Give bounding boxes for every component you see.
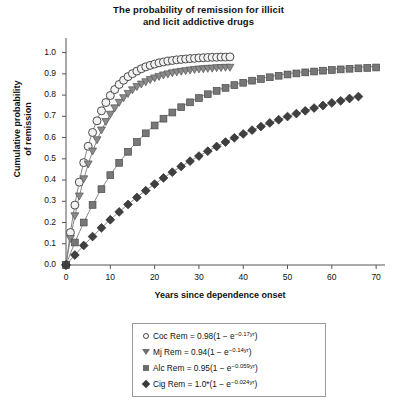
data-point <box>111 105 119 112</box>
data-point <box>169 109 176 116</box>
data-point <box>292 109 301 118</box>
y-tick-label: 0.5 <box>22 153 56 163</box>
data-point <box>284 71 291 78</box>
legend-tail-coc: ) <box>255 331 258 341</box>
x-tick-label: 0 <box>53 272 79 282</box>
data-point <box>116 159 123 166</box>
data-point <box>98 186 105 193</box>
legend-tail-cig: ) <box>254 379 257 389</box>
data-point <box>178 104 185 111</box>
data-point <box>168 168 177 177</box>
legend-tail-mj: ) <box>249 347 252 357</box>
legend-label-cig: Cig Rem = 1.0*(1 − e−0.024yr) <box>153 379 257 389</box>
data-point <box>275 72 282 79</box>
plot-svg <box>0 0 397 310</box>
x-tick-label: 70 <box>363 272 389 282</box>
legend-label-coc: Coc Rem = 0.98(1 − e−0.17yr) <box>153 331 258 341</box>
data-point <box>337 66 344 73</box>
data-point <box>151 122 158 129</box>
data-point <box>89 148 97 155</box>
legend-label-alc: Alc Rem = 0.95(1 − e−0.059yr) <box>153 363 258 373</box>
data-point <box>265 119 274 128</box>
data-point <box>97 127 105 134</box>
data-point <box>93 117 101 125</box>
data-point <box>221 138 230 147</box>
data-point <box>71 239 78 246</box>
data-point <box>133 139 140 146</box>
data-point <box>177 162 186 171</box>
data-point <box>373 64 380 71</box>
x-axis-title: Years since dependence onset <box>60 290 380 300</box>
data-point <box>257 122 266 131</box>
square-marker <box>139 365 153 371</box>
data-point <box>195 152 204 161</box>
data-point <box>239 130 248 139</box>
data-point <box>80 219 87 226</box>
data-point <box>204 91 211 98</box>
data-point <box>310 104 319 113</box>
data-point <box>106 111 114 118</box>
x-tick-label: 30 <box>186 272 212 282</box>
plot-area: Cumulative probability of remission Year… <box>0 0 397 310</box>
data-point <box>160 115 167 122</box>
data-point <box>187 99 194 106</box>
data-point <box>319 101 328 110</box>
legend-equation-mj: Mj Rem = 0.94(1 − e <box>153 347 229 357</box>
data-point <box>230 133 239 142</box>
y-tick-label: 0.4 <box>22 174 56 184</box>
legend-equation-cig: Cig Rem = 1.0*(1 − e <box>153 379 231 389</box>
data-point <box>283 112 292 121</box>
data-point <box>346 65 353 72</box>
legend-equation-alc: Alc Rem = 0.95(1 − e <box>153 363 231 373</box>
data-point <box>141 186 150 195</box>
data-point <box>355 65 362 72</box>
data-point <box>258 76 265 83</box>
x-tick-label: 60 <box>319 272 345 282</box>
data-point <box>107 172 114 179</box>
x-tick-label: 40 <box>230 272 256 282</box>
data-point <box>311 68 318 75</box>
data-point <box>222 84 229 91</box>
data-point <box>212 142 221 151</box>
data-point <box>93 137 101 144</box>
legend-item-coc: Coc Rem = 0.98(1 − e−0.17yr) <box>139 328 319 344</box>
data-point <box>336 96 345 105</box>
y-tick-label: 0.9 <box>22 68 56 78</box>
data-point <box>71 213 79 220</box>
data-point <box>248 126 257 135</box>
y-tick-label: 0.2 <box>22 217 56 227</box>
y-tick-label: 0.6 <box>22 132 56 142</box>
data-point <box>240 79 247 86</box>
legend-tail-alc: ) <box>255 363 258 373</box>
data-point <box>186 157 195 166</box>
data-point <box>345 94 354 103</box>
data-point <box>266 74 273 81</box>
data-point <box>71 201 79 209</box>
legend-label-mj: Mj Rem = 0.94(1 − e−0.14yr) <box>153 347 252 357</box>
data-point <box>150 180 159 189</box>
x-tick-label: 20 <box>142 272 168 282</box>
data-point <box>97 107 105 115</box>
legend-item-cig: Cig Rem = 1.0*(1 − e−0.024yr) <box>139 376 319 392</box>
data-point <box>293 70 300 77</box>
data-point <box>102 118 110 125</box>
data-point <box>301 106 310 115</box>
data-point <box>213 87 220 94</box>
data-point <box>302 69 309 76</box>
data-point <box>327 99 336 108</box>
data-point <box>102 99 110 107</box>
data-point <box>196 95 203 102</box>
data-point <box>203 147 212 156</box>
data-point <box>89 128 97 136</box>
y-tick-label: 0.8 <box>22 89 56 99</box>
legend-item-mj: Mj Rem = 0.94(1 − e−0.14yr) <box>139 344 319 360</box>
y-tick-label: 0.7 <box>22 110 56 120</box>
x-tick-label: 50 <box>275 272 301 282</box>
data-point <box>159 174 168 183</box>
fit-curve-cig-rem <box>66 96 358 265</box>
data-point <box>125 148 132 155</box>
y-tick-label: 0.1 <box>22 238 56 248</box>
chart-legend: Coc Rem = 0.98(1 − e−0.17yr) Mj Rem = 0.… <box>132 323 326 397</box>
y-tick-label: 0.3 <box>22 195 56 205</box>
data-point <box>231 82 238 89</box>
